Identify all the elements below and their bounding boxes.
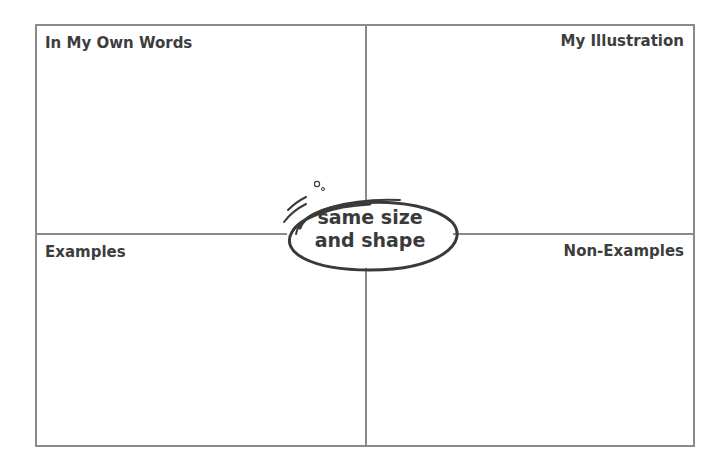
quadrant-label-non-examples: Non-Examples [564,242,684,260]
center-term-line-2: and shape [290,229,450,252]
quadrant-label-in-my-own-words: In My Own Words [45,34,192,52]
center-term-line-1: same size [290,206,450,229]
quadrant-label-my-illustration: My Illustration [561,32,684,50]
center-term: same size and shape [290,206,450,252]
quadrant-label-examples: Examples [45,243,126,261]
